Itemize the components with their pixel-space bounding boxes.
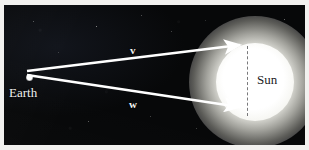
night-sky-background: Earth Sun v w [4,5,305,145]
sun-label: Sun [257,73,277,86]
vector-w-label: w [129,99,137,110]
vector-v-label: v [130,45,136,56]
earth-label: Earth [9,86,37,99]
figure-astronomy-vector-diagram: Earth Sun v w [0,0,309,150]
